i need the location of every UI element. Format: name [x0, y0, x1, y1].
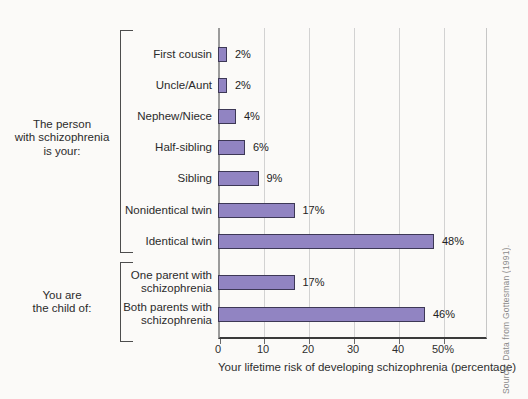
bar: [218, 307, 425, 322]
category-label: Identical twin: [146, 235, 212, 248]
gridline: [399, 28, 400, 337]
source-credit: Source: Data from Gottesman (1991).: [501, 196, 511, 394]
bar: [218, 140, 245, 155]
group-label-line: You are: [3, 289, 121, 303]
bar: [218, 203, 295, 218]
category-label-line: schizophrenia: [123, 314, 212, 327]
x-tick-label: 40: [378, 343, 418, 355]
category-label: First cousin: [153, 48, 212, 61]
bar: [218, 234, 434, 249]
bar-value-label: 9%: [267, 171, 283, 186]
x-tick-label: 0: [198, 343, 238, 355]
category-label: Uncle/Aunt: [156, 79, 212, 92]
bar: [218, 78, 227, 93]
group-label-line: is your:: [3, 145, 121, 159]
category-label-line: Nephew/Niece: [137, 110, 212, 123]
bar: [218, 47, 227, 62]
group-bracket: [120, 262, 133, 342]
bar-value-label: 17%: [303, 275, 325, 290]
bar-value-label: 6%: [253, 140, 269, 155]
gridline: [264, 28, 265, 337]
group-label-line: The person: [3, 118, 121, 132]
gridline: [444, 28, 445, 337]
group-bracket: [120, 30, 133, 253]
bar-value-label: 2%: [235, 78, 251, 93]
gridline: [354, 28, 355, 337]
category-label-line: Sibling: [177, 172, 212, 185]
category-label: Sibling: [177, 172, 212, 185]
figure: 2%First cousin2%Uncle/Aunt4%Nephew/Niece…: [0, 0, 528, 399]
bar-value-label: 46%: [433, 307, 455, 322]
category-label: Both parents withschizophrenia: [123, 301, 212, 327]
category-label-line: First cousin: [153, 48, 212, 61]
category-label-line: Nonidentical twin: [125, 204, 212, 217]
category-label-line: Both parents with: [123, 301, 212, 314]
category-label-line: Half-sibling: [155, 141, 212, 154]
bar-value-label: 48%: [442, 234, 464, 249]
category-label: Nonidentical twin: [125, 204, 212, 217]
bar-value-label: 2%: [235, 47, 251, 62]
bar: [218, 275, 295, 290]
bar: [218, 171, 259, 186]
group-label-line: with schizophrenia: [3, 131, 121, 145]
group-label: You arethe child of:: [3, 289, 121, 316]
category-label-line: Identical twin: [146, 235, 212, 248]
x-tick-label: 30: [333, 343, 373, 355]
category-label-line: One parent with: [131, 269, 212, 282]
category-label: Half-sibling: [155, 141, 212, 154]
bar: [218, 109, 236, 124]
group-label-line: the child of:: [3, 302, 121, 316]
x-tick-label: 20: [288, 343, 328, 355]
category-label: One parent withschizophrenia: [131, 269, 212, 295]
bar-value-label: 17%: [303, 203, 325, 218]
group-label: The personwith schizophreniais your:: [3, 118, 121, 159]
bar-value-label: 4%: [244, 109, 260, 124]
category-label-line: schizophrenia: [131, 282, 212, 295]
gridline: [309, 28, 310, 337]
category-label: Nephew/Niece: [137, 110, 212, 123]
category-label-line: Uncle/Aunt: [156, 79, 212, 92]
x-tick-label: 10: [243, 343, 283, 355]
x-axis-label: Your lifetime risk of developing schizop…: [218, 361, 487, 373]
x-tick-label: 50%: [423, 343, 463, 355]
